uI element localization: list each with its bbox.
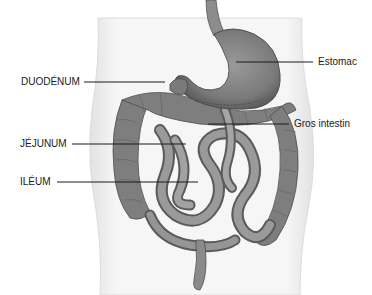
label-gros-intestin: Gros intestin	[294, 118, 350, 130]
label-duodenum: DUODÉNUM	[21, 76, 80, 88]
label-estomac: Estomac	[318, 56, 357, 68]
anatomy-diagram: DUODÉNUM JÉJUNUM ILÉUM Estomac Gros inte…	[0, 0, 372, 295]
label-jejunum: JÉJUNUM	[20, 138, 67, 150]
duodenum	[170, 79, 188, 95]
label-ileum: ILÉUM	[20, 176, 51, 188]
